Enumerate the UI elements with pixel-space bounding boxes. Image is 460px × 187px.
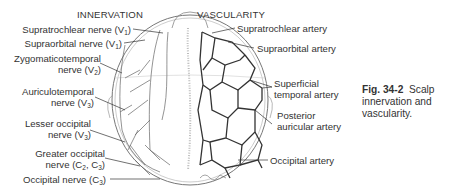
nerves [120, 30, 170, 175]
label-posterior-auricular-artery: Posterior auricular artery [277, 110, 341, 132]
label-greater-occipital-nerve: Greater occipital nerve (C2, C3) [35, 148, 105, 170]
label-lesser-occipital-nerve: Lesser occipital nerve (V3) [25, 118, 91, 140]
header-innervation: INNERVATION [77, 9, 143, 20]
label-supratrochlear-nerve: Supratrochlear nerve (V1) [22, 24, 131, 35]
label-supratrochlear-artery: Supratrochlear artery [237, 23, 327, 34]
label-supraorbital-nerve: Supraorbital nerve (V1) [25, 38, 122, 49]
figure-number: Fig. 34-2 [362, 84, 403, 95]
head-outline [112, 15, 268, 185]
figure-caption: Fig. 34-2 Scalp innervation and vascular… [362, 84, 460, 120]
label-zygomaticotemporal-nerve: Zygomaticotemporal nerve (V2) [14, 53, 101, 75]
label-auriculotemporal-nerve: Auriculotemporal nerve (V3) [22, 86, 94, 108]
label-superficial-temporal-artery: Superficial temporal artery [274, 78, 339, 100]
label-occipital-artery: Occipital artery [270, 155, 334, 166]
header-vascularity: VASCULARITY [197, 9, 265, 20]
label-occipital-nerve: Occipital nerve (C3) [23, 174, 106, 185]
label-supraorbital-artery: Supraorbital artery [257, 43, 336, 54]
